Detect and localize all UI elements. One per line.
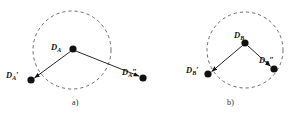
node-label-da-double-prime-mark: ″	[132, 67, 136, 77]
node-dot-da	[69, 45, 76, 52]
figure-container: DA DA′ DA″ DB DB′ DB″ a) b)	[0, 0, 300, 120]
panel-b	[204, 12, 283, 88]
panel-b-arrow-to-db-prime	[212, 46, 243, 72]
node-dot-db-double-prime	[270, 65, 277, 72]
panel-b-caption: b)	[227, 98, 234, 107]
node-dot-db-prime	[204, 70, 211, 77]
node-dot-da-prime	[27, 76, 34, 83]
node-dot-da-double-prime	[139, 74, 146, 81]
node-label-da-double-prime: DA″	[122, 68, 137, 78]
node-label-db-prime: DB′	[186, 66, 198, 76]
node-label-da-subscript: A	[57, 47, 61, 53]
node-label-db-double-prime: DB″	[259, 56, 274, 66]
node-label-da-prime: DA′	[6, 71, 18, 81]
panel-a-caption: a)	[72, 98, 79, 107]
panel-b-boundary-circle	[207, 12, 283, 88]
panel-a-arrow-to-da-prime	[34, 52, 70, 78]
figure-svg-canvas	[0, 0, 300, 120]
node-label-db-double-prime-mark: ″	[269, 55, 273, 65]
node-label-db-subscript: B	[240, 35, 244, 41]
node-label-da-prime-mark: ′	[16, 70, 18, 80]
node-label-da: DA	[51, 43, 61, 53]
node-label-db-prime-mark: ′	[196, 65, 198, 75]
node-label-db: DB	[234, 31, 244, 41]
